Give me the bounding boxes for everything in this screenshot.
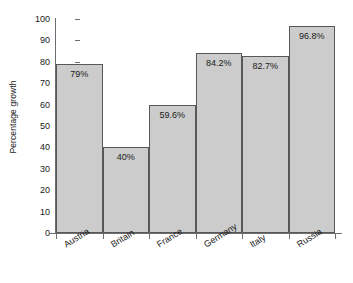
x-axis-tick-mark [149,234,150,239]
y-axis-tick-label: 100 [35,14,50,25]
y-axis-title-label: Percentage growth [8,80,18,153]
y-axis-tick-label: 10 [40,206,50,217]
y-axis-title: Percentage growth [0,0,26,234]
x-axis-tick-mark [242,234,243,239]
y-axis-tick-label: 30 [40,163,50,174]
bar-value-label: 96.8% [290,31,335,41]
y-axis-tick-label: 40 [40,142,50,153]
bar-value-label: 59.6% [150,110,195,120]
bar-value-label: 82.7% [243,61,288,71]
bar-value-label: 40% [104,152,149,162]
y-axis-tick-label: 80 [40,56,50,67]
x-axis-tick-mark [335,234,336,239]
y-axis-tick-labels: 1009080706050403020100 [26,0,50,283]
bar-britain: 40% [103,147,150,233]
y-axis-tick-label: 90 [40,35,50,46]
x-axis-tick-mark [289,234,290,239]
bar-value-label: 79% [57,69,102,79]
bar-chart: Percentage growth 1009080706050403020100… [0,0,353,283]
plot-area: 79%40%59.6%84.2%82.7%96.8% [56,19,335,233]
x-axis-tick-mark [56,234,57,239]
bar-germany: 84.2% [196,53,243,233]
bar-russia: 96.8% [289,26,336,233]
x-axis-category-label: Italy [248,232,267,249]
x-axis-tick-mark [103,234,104,239]
bar-italy: 82.7% [242,56,289,233]
y-axis-tick-label: 20 [40,185,50,196]
y-axis-tick-label: 70 [40,78,50,89]
bar-austria: 79% [56,64,103,233]
bar-value-label: 84.2% [197,58,242,68]
y-axis-tick-label: 50 [40,121,50,132]
y-axis-tick-label: 60 [40,99,50,110]
x-axis-tick-mark [196,234,197,239]
bar-france: 59.6% [149,105,196,233]
